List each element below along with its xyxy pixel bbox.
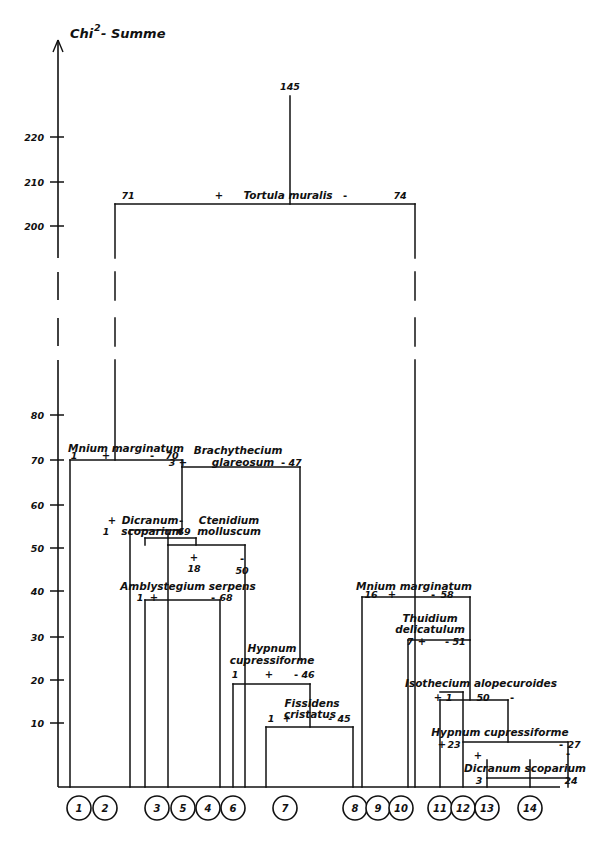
tick-label-60: 60	[31, 500, 45, 511]
leaf-label: 3	[154, 803, 161, 814]
fissidens-value-left: 1	[268, 713, 275, 724]
dicranum-left-value: 1	[103, 526, 110, 537]
hypnum-left-sign-left: +	[265, 669, 273, 680]
ctenidium-species-l2: molluscum	[197, 525, 261, 537]
tick-label-10: 10	[31, 718, 45, 729]
root-right-value: 74	[393, 190, 407, 201]
fissidens-sign-right: -	[328, 713, 332, 724]
brachy-sign-right: -	[281, 457, 285, 468]
node-dicranum-scoparium-right: + - Dicranum scoparium 3 24	[464, 748, 586, 786]
leaf-node-6[interactable]: 6	[221, 796, 245, 820]
tick-label-210: 210	[24, 177, 44, 188]
isothecium-value-left: 1	[446, 692, 453, 703]
mnium-left-sign: +	[102, 450, 110, 461]
dicranum-left-value-right: 69	[177, 526, 191, 537]
node-mnium-marginatum-left: Mnium marginatum 1 + - 70	[68, 442, 184, 461]
y-axis-group	[53, 40, 63, 787]
amblystegium-sign-right: -	[211, 592, 215, 603]
node-isothecium-alopecuroides: Isothecium alopecuroides + 1 50 -	[405, 677, 557, 703]
leaf-label: 8	[352, 803, 359, 814]
tick-label-220: 220	[24, 132, 44, 143]
ctenidium-value-right: 50	[235, 565, 249, 576]
mnium-right-sign-right: -	[431, 589, 435, 600]
isothecium-value-right: 50	[476, 692, 490, 703]
leaf-node-1[interactable]: 1	[67, 796, 91, 820]
ctenidium-sign-right: -	[240, 553, 244, 564]
node-brachythecium-glareosum: Brachythecium glareosum 3 + - 47	[169, 444, 302, 468]
node-fissidens-cristatus: Fissidens cristatus 1 + - 45	[268, 697, 351, 724]
tick-label-50: 50	[31, 543, 45, 554]
leaf-label: 4	[204, 803, 212, 814]
amblystegium-value-right: 68	[219, 592, 233, 603]
mnium-left-sign-right: -	[150, 450, 154, 461]
hypnum-right-species: Hypnum cupressiforme	[431, 726, 568, 738]
fissidens-value-right: 45	[336, 713, 351, 724]
node-thuidium-delicatulum: Thuidium delicatulum 7 + - 51	[395, 612, 465, 647]
dicranum-right-value-left: 3	[476, 775, 483, 786]
root-left-sign: +	[215, 190, 223, 201]
leaf-label: 5	[180, 803, 187, 814]
tick-label-80: 80	[31, 410, 45, 421]
isothecium-species: Isothecium alopecuroides	[405, 677, 557, 689]
axis-title-suffix: - Summe	[101, 26, 166, 41]
hypnum-left-value-left: 1	[232, 669, 239, 680]
leaf-node-13[interactable]: 13	[475, 796, 499, 820]
mnium-right-sign-left: +	[388, 589, 396, 600]
hypnum-left-value-right: 46	[300, 669, 315, 680]
axis-title: Chi 2 - Summe	[70, 22, 166, 41]
amblystegium-species: Amblystegium serpens	[119, 580, 256, 592]
fissidens-sign-left: +	[283, 713, 291, 724]
node-hypnum-cupressiforme-left: Hypnum cupressiforme 1 + - 46	[230, 642, 315, 680]
mnium-left-value: 1	[71, 450, 78, 461]
mnium-right-value-right: 58	[440, 589, 454, 600]
brachy-value-right: 47	[287, 457, 302, 468]
hypnum-left-species-l2: cupressiforme	[230, 654, 315, 666]
leaf-node-4[interactable]: 4	[196, 796, 220, 820]
leaf-label: 13	[480, 803, 494, 814]
leaf-node-2[interactable]: 2	[93, 796, 117, 820]
leaf-nodes: 1 2 3 5 4 6 7 8	[67, 796, 542, 820]
y-axis-ticks-lower	[50, 415, 64, 723]
tick-label-200: 200	[24, 221, 44, 232]
leaf-node-10[interactable]: 10	[389, 796, 413, 820]
leaf-label: 10	[394, 803, 408, 814]
hypnum-left-species-l1: Hypnum	[247, 642, 296, 654]
tick-label-70: 70	[31, 455, 45, 466]
root-height-label: 145	[280, 81, 300, 92]
dendrogram-svg: 220 210 200 80 70 60 50 40 30 20 10 Chi …	[0, 0, 592, 842]
axis-title-chi: Chi	[70, 26, 94, 41]
figure-canvas: 220 210 200 80 70 60 50 40 30 20 10 Chi …	[0, 0, 592, 842]
thuidium-sign-left: +	[418, 636, 426, 647]
leaf-label: 6	[230, 803, 237, 814]
mnium-right-value-left: 16	[364, 589, 378, 600]
amblystegium-value-left: 1	[137, 592, 144, 603]
ctenidium-sign-left: +	[190, 552, 198, 563]
hypnum-left-sign-right: -	[294, 669, 298, 680]
amblystegium-sign-left: +	[150, 592, 158, 603]
leaf-node-14[interactable]: 14	[518, 796, 542, 820]
root-species-label: Tortula muralis	[243, 189, 332, 201]
leaf-node-7[interactable]: 7	[273, 796, 297, 820]
leaf-node-11[interactable]: 11	[428, 796, 452, 820]
leaf-node-9[interactable]: 9	[366, 796, 390, 820]
brachy-sign-left: +	[179, 457, 187, 468]
tick-label-40: 40	[30, 586, 45, 597]
y-axis-ticks-upper	[50, 137, 64, 226]
dicranum-right-species: Dicranum scoparium	[464, 762, 586, 774]
leaf-node-5[interactable]: 5	[171, 796, 195, 820]
leaf-node-8[interactable]: 8	[343, 796, 367, 820]
leaf-label: 7	[282, 803, 289, 814]
isothecium-sign-right: -	[510, 692, 514, 703]
thuidium-value-left: 7	[407, 636, 414, 647]
leaf-label: 12	[456, 803, 470, 814]
leaf-label: 11	[433, 803, 447, 814]
root-left-value: 71	[121, 190, 134, 201]
brachy-species-l1: Brachythecium	[194, 444, 283, 456]
root-right-sign: -	[343, 190, 347, 201]
node-dicranum-scoparium-left: + Dicranum - 1 scoparium 69	[103, 514, 191, 537]
dicranum-left-species-l2: scoparium	[121, 525, 183, 537]
dicranum-right-value-right: 24	[564, 775, 578, 786]
hypnum-right-value-left: 23	[447, 739, 461, 750]
leaf-node-12[interactable]: 12	[451, 796, 475, 820]
leaf-node-3[interactable]: 3	[145, 796, 169, 820]
